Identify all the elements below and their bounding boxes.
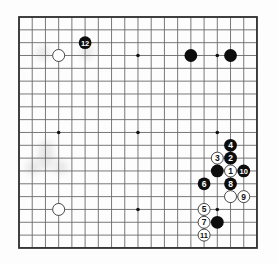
black-stone[interactable] <box>211 165 224 178</box>
star-point <box>216 131 220 135</box>
move-number: 6 <box>202 179 207 189</box>
black-stone-8[interactable]: 8 <box>224 177 237 190</box>
white-stone-1[interactable]: 1 <box>225 165 237 177</box>
white-stone-icon <box>53 203 65 215</box>
white-stone[interactable] <box>53 49 65 61</box>
black-stone[interactable] <box>224 49 237 62</box>
black-stone-12[interactable]: 12 <box>79 36 92 49</box>
star-point <box>136 208 140 212</box>
move-number: 8 <box>228 179 233 189</box>
move-number: 9 <box>241 192 246 202</box>
star-point <box>57 131 61 135</box>
move-number: 3 <box>215 153 220 163</box>
white-stone-7[interactable]: 7 <box>198 216 210 228</box>
white-stone-icon <box>53 49 65 61</box>
black-stone-4[interactable]: 4 <box>224 139 237 152</box>
black-stone-icon <box>184 49 197 62</box>
move-number: 11 <box>200 231 208 240</box>
black-stone-icon <box>211 165 224 178</box>
star-point <box>136 131 140 135</box>
white-stone-9[interactable]: 9 <box>238 191 250 203</box>
black-stone-6[interactable]: 6 <box>198 177 211 190</box>
black-stone-2[interactable]: 2 <box>224 152 237 165</box>
white-stone-3[interactable]: 3 <box>211 152 223 164</box>
black-stone[interactable] <box>211 216 224 229</box>
star-point <box>216 208 220 212</box>
black-stone-icon <box>224 49 237 62</box>
move-number: 1 <box>228 166 233 176</box>
white-stone-5[interactable]: 5 <box>198 203 210 215</box>
move-number: 4 <box>228 140 233 150</box>
move-number: 2 <box>228 153 233 163</box>
black-stone-10[interactable]: 10 <box>237 165 250 178</box>
move-number: 12 <box>81 39 89 48</box>
go-board[interactable]: 124321106895711 <box>0 0 278 264</box>
white-stone-icon <box>225 191 237 203</box>
move-number: 10 <box>240 167 248 176</box>
black-stone-icon <box>211 216 224 229</box>
white-stone[interactable] <box>225 191 237 203</box>
star-point <box>136 54 140 58</box>
white-stone-11[interactable]: 11 <box>198 229 210 241</box>
white-stone[interactable] <box>53 203 65 215</box>
move-number: 5 <box>202 204 207 214</box>
move-number: 7 <box>202 217 207 227</box>
star-point <box>216 54 220 58</box>
black-stone[interactable] <box>184 49 197 62</box>
